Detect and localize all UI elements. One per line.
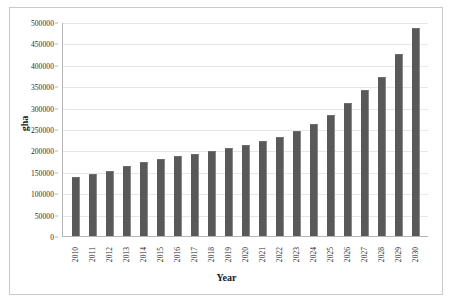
bar-slot bbox=[221, 23, 238, 236]
bar[interactable] bbox=[157, 159, 165, 236]
x-tick-slot: 2013 bbox=[118, 239, 135, 271]
y-axis-tick-label: 450000 bbox=[31, 40, 54, 49]
bar[interactable] bbox=[242, 145, 250, 236]
x-tick-slot: 2011 bbox=[84, 239, 101, 271]
x-tick-slot: 2021 bbox=[254, 239, 271, 271]
x-axis-tick-label: 2016 bbox=[173, 247, 182, 262]
bar-slot bbox=[153, 23, 170, 236]
bar[interactable] bbox=[344, 103, 352, 236]
bar-slot bbox=[136, 23, 153, 236]
x-axis-tick-label: 2011 bbox=[88, 247, 97, 262]
bar-slot bbox=[271, 23, 288, 236]
bar[interactable] bbox=[123, 166, 131, 236]
bar-slot bbox=[238, 23, 255, 236]
bar-slot bbox=[407, 23, 424, 236]
bar[interactable] bbox=[276, 137, 284, 236]
plot-area bbox=[62, 23, 428, 237]
x-axis-tick-label: 2029 bbox=[394, 247, 403, 262]
x-axis-tick-label: 2013 bbox=[122, 247, 131, 262]
x-axis-tick-label: 2022 bbox=[275, 247, 284, 262]
x-tick-slot: 2029 bbox=[390, 239, 407, 271]
bar-slot bbox=[187, 23, 204, 236]
bar-series bbox=[63, 23, 428, 236]
bar-slot bbox=[356, 23, 373, 236]
bar-slot bbox=[170, 23, 187, 236]
x-tick-slot: 2026 bbox=[339, 239, 356, 271]
x-axis-tick-label: 2025 bbox=[326, 247, 335, 262]
y-axis-tick-label: 250000 bbox=[31, 126, 54, 135]
bar-slot bbox=[119, 23, 136, 236]
x-tick-slot: 2017 bbox=[186, 239, 203, 271]
y-axis-tick-mark bbox=[55, 44, 58, 45]
x-axis-tick-label: 2018 bbox=[207, 247, 216, 262]
x-tick-slot: 2014 bbox=[135, 239, 152, 271]
bar[interactable] bbox=[395, 54, 403, 236]
x-axis-tick-label: 2023 bbox=[292, 247, 301, 262]
bar[interactable] bbox=[208, 151, 216, 236]
bar[interactable] bbox=[140, 162, 148, 236]
x-axis-tick-label: 2020 bbox=[241, 247, 250, 262]
x-axis-tick-label: 2012 bbox=[105, 247, 114, 262]
bar[interactable] bbox=[327, 115, 335, 236]
y-axis-tick-label: 500000 bbox=[31, 19, 54, 28]
y-axis-tick-mark bbox=[55, 87, 58, 88]
bar[interactable] bbox=[72, 177, 80, 236]
x-tick-slot: 2022 bbox=[271, 239, 288, 271]
x-axis-tick-label: 2030 bbox=[411, 247, 420, 262]
bar[interactable] bbox=[259, 141, 267, 236]
x-tick-slot: 2019 bbox=[220, 239, 237, 271]
bar-slot bbox=[102, 23, 119, 236]
x-axis-tick-label: 2026 bbox=[343, 247, 352, 262]
x-axis-tick-label: 2010 bbox=[71, 247, 80, 262]
bar-slot bbox=[322, 23, 339, 236]
x-axis-tick-label: 2017 bbox=[190, 247, 199, 262]
y-axis-tick-mark bbox=[55, 215, 58, 216]
bar[interactable] bbox=[89, 174, 97, 236]
y-axis-tick-label: 50000 bbox=[35, 211, 54, 220]
bar[interactable] bbox=[378, 77, 386, 236]
bar-slot bbox=[373, 23, 390, 236]
y-axis-tick-label: 300000 bbox=[31, 104, 54, 113]
x-tick-slot: 2020 bbox=[237, 239, 254, 271]
bar[interactable] bbox=[106, 171, 114, 236]
bar-slot bbox=[254, 23, 271, 236]
plot-area-wrapper bbox=[62, 23, 428, 237]
x-axis-tick-label: 2019 bbox=[224, 247, 233, 262]
bar[interactable] bbox=[293, 131, 301, 236]
x-tick-slot: 2015 bbox=[152, 239, 169, 271]
y-axis-tick-mark bbox=[55, 237, 58, 238]
y-axis-tick-mark bbox=[55, 194, 58, 195]
bar[interactable] bbox=[174, 156, 182, 236]
y-axis-tick-label: 0 bbox=[50, 233, 54, 242]
x-axis-tick-label: 2028 bbox=[377, 247, 386, 262]
x-axis-tick-labels: 2010201120122013201420152016201720182019… bbox=[62, 239, 428, 271]
y-axis-tick-mark bbox=[55, 151, 58, 152]
x-tick-slot: 2028 bbox=[373, 239, 390, 271]
x-axis-tick-label: 2014 bbox=[139, 247, 148, 262]
bar[interactable] bbox=[191, 154, 199, 236]
x-tick-slot: 2016 bbox=[169, 239, 186, 271]
chart-figure: gha 050000100000150000200000250000300000… bbox=[0, 0, 453, 304]
x-tick-slot: 2025 bbox=[322, 239, 339, 271]
bar-slot bbox=[390, 23, 407, 236]
x-axis-tick-label: 2021 bbox=[258, 247, 267, 262]
x-tick-slot: 2030 bbox=[407, 239, 424, 271]
y-axis-tick-label: 350000 bbox=[31, 83, 54, 92]
y-axis-tick-labels: 0500001000001500002000002500003000003500… bbox=[0, 23, 58, 237]
bar[interactable] bbox=[361, 90, 369, 236]
y-axis-tick-mark bbox=[55, 172, 58, 173]
bar[interactable] bbox=[310, 124, 318, 236]
y-axis-tick-label: 400000 bbox=[31, 61, 54, 70]
x-axis-tick-label: 2024 bbox=[309, 247, 318, 262]
x-tick-slot: 2024 bbox=[305, 239, 322, 271]
x-tick-slot: 2023 bbox=[288, 239, 305, 271]
bar-slot bbox=[305, 23, 322, 236]
y-axis-tick-mark bbox=[55, 23, 58, 24]
bar[interactable] bbox=[225, 148, 233, 236]
bar[interactable] bbox=[412, 28, 420, 236]
x-axis-tick-label: 2027 bbox=[360, 247, 369, 262]
x-tick-slot: 2012 bbox=[101, 239, 118, 271]
bar-slot bbox=[85, 23, 102, 236]
y-axis-tick-mark bbox=[55, 65, 58, 66]
y-axis-tick-label: 200000 bbox=[31, 147, 54, 156]
